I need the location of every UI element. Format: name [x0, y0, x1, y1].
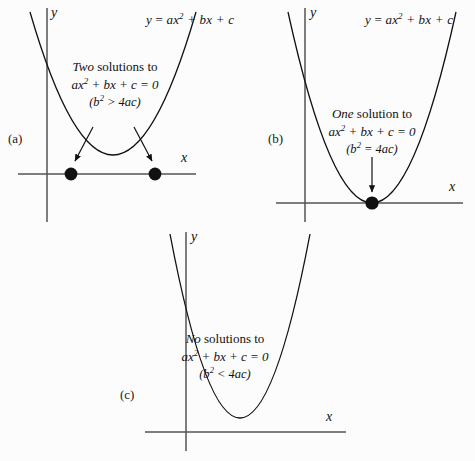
panel-a-y-axis-label: y: [51, 5, 57, 21]
panel-c-annotation-line-2: ax2 + bx + c = 0: [166, 348, 284, 366]
panel-c-annotation-line1-rest: solutions to: [204, 331, 264, 346]
panel-label-a: (a): [8, 131, 22, 147]
panel-b-disc-open: (b: [346, 142, 356, 156]
panel-a-annotation-line-1: Two solutions to: [60, 58, 170, 76]
panel-label-c: (c): [120, 387, 134, 403]
panel-b-eq-rest: + bx + c = 0: [348, 124, 415, 139]
panel-a-annotation-line-2: ax2 + bx + c = 0: [60, 76, 170, 94]
panel-b-curve-equals: =: [374, 12, 382, 27]
panel-b-disc-rest: = 4ac): [364, 142, 398, 156]
panel-b-annotation: One solution to ax2 + bx + c = 0 (b2 = 4…: [317, 105, 427, 158]
panel-a-curve-equals: =: [155, 12, 163, 27]
panel-c-y-axis-label: y: [191, 229, 197, 245]
panel-a-eq-rest: + bx + c = 0: [91, 77, 158, 92]
panel-b-annotation-line-1: One solution to: [317, 105, 427, 123]
panel-c-annotation-line-3: (b2 < 4ac): [166, 366, 284, 383]
panel-a-annotation-line-3: (b2 > 4ac): [60, 94, 170, 111]
panel-c-disc-rest: < 4ac): [217, 367, 251, 381]
panel-c-annotation-emph: No: [186, 331, 201, 346]
panel-a-annotation: Two solutions to ax2 + bx + c = 0 (b2 > …: [60, 58, 170, 111]
panel-c-eq-rest: + bx + c = 0: [201, 349, 268, 364]
panel-a-disc-open: (b: [89, 95, 99, 109]
panel-b-annotation-line-2: ax2 + bx + c = 0: [317, 123, 427, 141]
panel-b-y-axis-label: y: [310, 5, 316, 21]
panel-b-annotation-emph: One: [332, 106, 354, 121]
panel-c-x-axis-label: x: [326, 409, 332, 425]
panel-c-disc-open: (b: [199, 367, 209, 381]
panel-b-curve-term1: ax: [385, 12, 398, 27]
panel-a-root-marker-left: [65, 168, 78, 181]
panel-a-annotation-line1-rest: solutions to: [97, 59, 157, 74]
panel-c-parabola: [170, 234, 310, 418]
panel-a-disc-rest: > 4ac): [107, 95, 141, 109]
panel-a-curve-equation: y = ax2 + bx + c: [146, 12, 234, 28]
panel-b-annotation-line-3: (b2 = 4ac): [317, 141, 427, 158]
panel-a-curve-term1: ax: [166, 12, 179, 27]
panel-c-annotation: No solutions to ax2 + bx + c = 0 (b2 < 4…: [166, 330, 284, 383]
panel-a-x-axis-label: x: [181, 150, 187, 166]
panel-a-curve-rest: + bx + c: [187, 12, 234, 27]
panel-c-annotation-line-1: No solutions to: [166, 330, 284, 348]
panel-b-x-axis-label: x: [449, 179, 455, 195]
panel-a-root-marker-right: [149, 168, 162, 181]
panel-a-annotation-emph: Two: [72, 59, 93, 74]
panel-b-eq-base: ax: [328, 124, 340, 139]
panel-c-eq-base: ax: [181, 349, 193, 364]
panel-b-annotation-line1-rest: solution to: [357, 106, 412, 121]
panel-a-eq-base: ax: [71, 77, 83, 92]
panel-label-b: (b): [268, 131, 283, 147]
panel-a-graph: [18, 8, 196, 222]
quadratic-solutions-figure: (a) y x y = ax2 + bx + c Two solutions t…: [0, 0, 475, 461]
panel-b-curve-equation: y = ax2 + bx + c: [365, 12, 453, 28]
panel-b-curve-rest: + bx + c: [406, 12, 453, 27]
panel-b-root-marker: [365, 196, 378, 209]
